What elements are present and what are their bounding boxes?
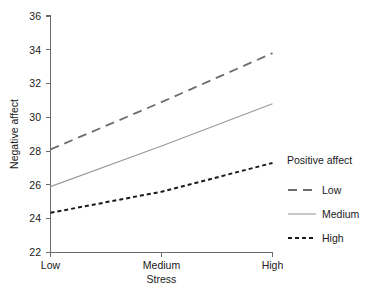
y-tick-label-26: 26 <box>29 179 41 191</box>
series-lines <box>51 53 273 213</box>
x-axis-title: Stress <box>147 273 177 285</box>
x-axis-tick-labels: Low Medium High <box>41 259 284 271</box>
y-axis-title: Negative affect <box>8 99 20 169</box>
legend-label-low: Low <box>322 184 342 196</box>
legend-label-medium: Medium <box>322 208 360 220</box>
negative-affect-line-chart: 22 24 26 28 30 32 34 36 Low Medium High … <box>0 0 371 295</box>
legend-item-low[interactable]: Low <box>288 184 342 196</box>
legend-label-high: High <box>322 232 344 244</box>
y-tick-label-28: 28 <box>29 145 41 157</box>
x-tick-label-medium: Medium <box>143 259 181 271</box>
x-tick-label-low: Low <box>41 259 61 271</box>
y-tick-label-32: 32 <box>29 77 41 89</box>
legend-item-medium[interactable]: Medium <box>288 208 360 220</box>
x-axis-ticks <box>51 253 273 258</box>
x-tick-label-high: High <box>262 259 284 271</box>
legend-item-high[interactable]: High <box>288 232 344 244</box>
series-line-low <box>51 53 273 149</box>
series-line-medium <box>51 104 273 187</box>
y-axis-ticks <box>46 16 51 253</box>
legend-title: Positive affect <box>287 154 352 166</box>
y-tick-label-34: 34 <box>29 44 41 56</box>
y-axis-tick-labels: 22 24 26 28 30 32 34 36 <box>29 10 41 259</box>
y-tick-label-30: 30 <box>29 111 41 123</box>
legend: Positive affect Low Medium High <box>287 154 360 244</box>
chart-canvas: 22 24 26 28 30 32 34 36 Low Medium High … <box>0 0 371 295</box>
y-tick-label-24: 24 <box>29 212 41 224</box>
y-tick-label-36: 36 <box>29 10 41 22</box>
series-line-high <box>51 163 273 213</box>
y-tick-label-22: 22 <box>29 246 41 258</box>
